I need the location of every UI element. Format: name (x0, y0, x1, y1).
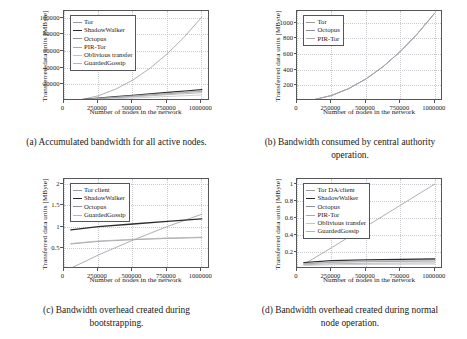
legend-item[interactable]: Tor client (73, 186, 126, 194)
legend-label: Oblivious transfer (84, 51, 132, 59)
legend-line-swatch (306, 223, 315, 224)
legend-item[interactable]: Octopus (73, 203, 126, 211)
x-tick-label: 250000 (87, 104, 107, 111)
y-tick-label: 200 (283, 81, 293, 88)
caption-line1-c: Bandwidth overhead created (56, 305, 163, 315)
y-tick-label: 1 (56, 222, 59, 229)
legend-label: PIR-Tor (84, 43, 106, 51)
legend-item[interactable]: ShadowWalker (73, 194, 126, 202)
y-tick-label: 0.6 (285, 214, 293, 221)
legend-c[interactable]: Tor clientShadowWalkerOctopusGuardedGoss… (70, 183, 130, 222)
legend-line-swatch (73, 63, 82, 64)
x-tick-label: 750000 (389, 104, 409, 111)
y-tick-label: 2 (56, 180, 59, 187)
y-tick-mark (60, 204, 63, 205)
legend-line-swatch (306, 198, 315, 199)
legend-item[interactable]: Tor DA/client (306, 186, 366, 194)
caption-line1-b: Bandwidth consumed by (278, 137, 371, 147)
x-tick-mark (399, 268, 400, 271)
legend-line-swatch (306, 30, 315, 31)
y-tick-mark (294, 183, 297, 184)
legend-label: GuardedGossip (84, 211, 126, 219)
legend-label: PIR-Tor (318, 211, 340, 219)
x-tick-label: 1000000 (189, 104, 212, 111)
x-tick-label: 500000 (355, 272, 375, 279)
y-tick-label: 1000 (280, 18, 293, 25)
y-tick-label: 0.2 (285, 248, 293, 255)
x-tick-label: 0 (61, 104, 64, 111)
legend-item[interactable]: Oblivious transfer (73, 51, 133, 59)
subfigure-c: Transferred data units [MByte] Number of… (0, 168, 233, 339)
y-axis-label-b: Transferred data units [MByte] (274, 0, 282, 112)
legend-label: Tor DA/client (318, 186, 355, 194)
y-axis-label-c: Transferred data units [MByte] (41, 168, 49, 280)
legend-line-swatch (73, 55, 82, 56)
legend-label: Octopus (318, 203, 340, 211)
legend-item[interactable]: Oblivious transfer (306, 219, 366, 227)
x-tick-label: 500000 (121, 272, 141, 279)
x-tick-label: 250000 (87, 272, 107, 279)
x-tick-mark (131, 268, 132, 271)
plot-b: Transferred data units [MByte] Number of… (250, 4, 450, 132)
legend-item[interactable]: Octopus (306, 203, 366, 211)
y-tick-mark (294, 37, 297, 38)
caption-tag-b: (b) (265, 137, 276, 147)
y-tick-mark (60, 83, 63, 84)
legend-label: Tor client (84, 186, 110, 194)
plot-c: Transferred data units [MByte] Number of… (17, 172, 217, 300)
figure-grid: Transferred data units [MByte] Number of… (0, 0, 467, 339)
legend-item[interactable]: PIR-Tor (306, 211, 366, 219)
x-tick-mark (97, 268, 98, 271)
y-tick-label: 20000 (43, 80, 59, 87)
x-tick-label: 0 (294, 104, 297, 111)
legend-item[interactable]: ShadowWalker (306, 194, 366, 202)
x-tick-label: 750000 (156, 104, 176, 111)
x-tick-label: 750000 (389, 272, 409, 279)
legend-item[interactable]: PIR-Tor (73, 43, 133, 51)
legend-item[interactable]: Tor (306, 18, 340, 26)
subfigure-d: Transferred data units [MByte] Number of… (233, 168, 467, 339)
y-axis-label-wrap-c: Transferred data units [MByte] (25, 172, 39, 276)
legend-item[interactable]: PIR-Tor (306, 35, 340, 43)
x-tick-label: 1000000 (189, 272, 212, 279)
legend-item[interactable]: GuardedGossip (73, 59, 133, 67)
x-tick-label: 500000 (355, 104, 375, 111)
legend-b[interactable]: TorOctopusPIR-Tor (303, 15, 344, 46)
y-tick-mark (60, 50, 63, 51)
y-tick-mark (294, 234, 297, 235)
y-tick-mark (294, 22, 297, 23)
legend-label: GuardedGossip (318, 227, 360, 235)
legend-label: Octopus (318, 26, 340, 34)
x-tick-mark (365, 268, 366, 271)
x-tick-mark (166, 268, 167, 271)
legend-item[interactable]: Tor (73, 18, 133, 26)
legend-item[interactable]: ShadowWalker (73, 26, 133, 34)
x-tick-mark (365, 100, 366, 103)
y-tick-mark (60, 226, 63, 227)
caption-line1-d: Bandwidth overhead created (275, 305, 382, 315)
legend-a[interactable]: TorShadowWalkerOctopusPIR-TorOblivious t… (70, 15, 137, 71)
legend-item[interactable]: GuardedGossip (73, 211, 126, 219)
y-tick-mark (60, 33, 63, 34)
x-tick-mark (97, 100, 98, 103)
legend-item[interactable]: Octopus (73, 35, 133, 43)
x-tick-label: 1000000 (422, 272, 445, 279)
caption-tag-d: (d) (262, 305, 273, 315)
series-line (70, 214, 201, 268)
legend-line-swatch (73, 190, 82, 191)
x-tick-label: 0 (61, 272, 64, 279)
plot-a: Transferred data units [MByte] Number of… (17, 4, 217, 132)
legend-line-swatch (306, 206, 315, 207)
subfigure-a: Transferred data units [MByte] Number of… (0, 0, 233, 168)
y-tick-mark (294, 217, 297, 218)
legend-d[interactable]: Tor DA/clientShadowWalkerOctopusPIR-TorO… (303, 183, 370, 239)
x-tick-mark (434, 100, 435, 103)
x-tick-mark (434, 268, 435, 271)
x-tick-mark (63, 268, 64, 271)
caption-tag-c: (c) (43, 305, 53, 315)
x-tick-label: 0 (294, 272, 297, 279)
legend-item[interactable]: Octopus (306, 26, 340, 34)
y-tick-mark (294, 53, 297, 54)
legend-item[interactable]: GuardedGossip (306, 227, 366, 235)
y-tick-label: 400 (283, 65, 293, 72)
